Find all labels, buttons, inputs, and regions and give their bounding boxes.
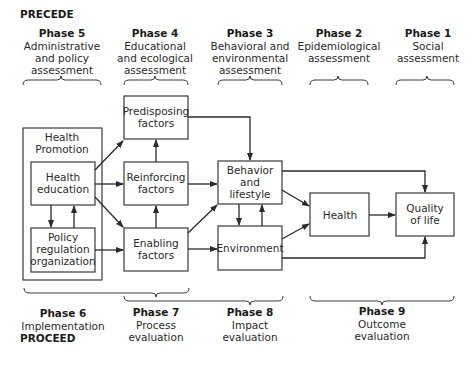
svg-text:Impact: Impact: [232, 319, 268, 331]
phase-9-label: Phase 9 Outcome evaluation: [354, 305, 409, 342]
svg-text:organization: organization: [30, 255, 95, 267]
svg-text:of life: of life: [410, 214, 439, 226]
svg-text:Behavior: Behavior: [227, 164, 274, 176]
svg-text:and ecological: and ecological: [117, 52, 193, 64]
top-braces: [23, 76, 454, 85]
svg-text:environmental: environmental: [212, 52, 288, 64]
svg-text:lifestyle: lifestyle: [229, 188, 270, 200]
svg-text:Phase 2: Phase 2: [316, 27, 363, 39]
svg-text:Phase 7: Phase 7: [133, 306, 180, 318]
svg-text:assessment: assessment: [124, 64, 186, 76]
svg-text:Phase 3: Phase 3: [227, 27, 274, 39]
phase-6-label: Phase 6 Implementation: [21, 307, 104, 332]
phase-7-label: Phase 7 Process evaluation: [128, 306, 183, 343]
svg-text:Outcome: Outcome: [358, 318, 406, 330]
svg-text:education: education: [37, 183, 89, 195]
svg-text:Health: Health: [45, 131, 79, 143]
svg-text:Phase 8: Phase 8: [227, 306, 274, 318]
svg-text:Health: Health: [323, 209, 357, 221]
phase-5-label: Phase 5 Administrative and policy assess…: [24, 27, 100, 76]
quality-of-life-label: Quality of life: [406, 202, 444, 226]
svg-text:Phase 1: Phase 1: [405, 27, 452, 39]
proceed-header: PROCEED: [20, 332, 76, 344]
svg-text:Implementation: Implementation: [21, 320, 104, 332]
svg-text:Reinforcing: Reinforcing: [126, 171, 185, 183]
svg-text:Phase 6: Phase 6: [40, 307, 87, 319]
svg-text:Quality: Quality: [406, 202, 444, 214]
svg-text:Educational: Educational: [124, 40, 186, 52]
svg-text:Environment: Environment: [216, 242, 283, 254]
svg-text:Process: Process: [136, 319, 176, 331]
svg-text:Administrative: Administrative: [24, 40, 100, 52]
bottom-braces: [24, 288, 454, 305]
phase-1-label: Phase 1 Social assessment: [397, 27, 459, 64]
svg-text:Behavioral and: Behavioral and: [210, 40, 289, 52]
svg-text:Phase 9: Phase 9: [359, 305, 406, 317]
svg-text:assessment: assessment: [308, 52, 370, 64]
precede-proceed-diagram: PRECEDE PROCEED Phase 5 Administrative a…: [0, 0, 475, 365]
svg-text:assessment: assessment: [397, 52, 459, 64]
environment-label: Environment: [216, 242, 283, 254]
svg-text:Policy: Policy: [48, 231, 78, 243]
svg-text:Epidemiological: Epidemiological: [298, 40, 381, 52]
svg-text:Predisposing: Predisposing: [123, 105, 190, 117]
svg-text:regulation: regulation: [36, 243, 89, 255]
svg-text:Phase 4: Phase 4: [132, 27, 179, 39]
svg-text:Promotion: Promotion: [35, 143, 88, 155]
phase-2-label: Phase 2 Epidemiological assessment: [298, 27, 381, 64]
enabling-factors-label: Enabling factors: [133, 237, 179, 261]
phase-4-label: Phase 4 Educational and ecological asses…: [117, 27, 193, 76]
svg-text:assessment: assessment: [31, 64, 93, 76]
svg-text:Health: Health: [46, 171, 80, 183]
svg-text:Phase 5: Phase 5: [39, 27, 86, 39]
svg-text:assessment: assessment: [219, 64, 281, 76]
phase-3-label: Phase 3 Behavioral and environmental ass…: [210, 27, 289, 76]
svg-text:factors: factors: [138, 117, 174, 129]
svg-text:evaluation: evaluation: [354, 330, 409, 342]
svg-text:Enabling: Enabling: [133, 237, 179, 249]
svg-text:evaluation: evaluation: [128, 331, 183, 343]
health-label: Health: [323, 209, 357, 221]
svg-text:evaluation: evaluation: [222, 331, 277, 343]
phase-8-label: Phase 8 Impact evaluation: [222, 306, 277, 343]
svg-text:and: and: [240, 176, 260, 188]
svg-text:and policy: and policy: [35, 52, 89, 64]
svg-text:factors: factors: [138, 183, 174, 195]
svg-text:factors: factors: [138, 249, 174, 261]
svg-text:Social: Social: [412, 40, 443, 52]
precede-header: PRECEDE: [20, 8, 74, 20]
